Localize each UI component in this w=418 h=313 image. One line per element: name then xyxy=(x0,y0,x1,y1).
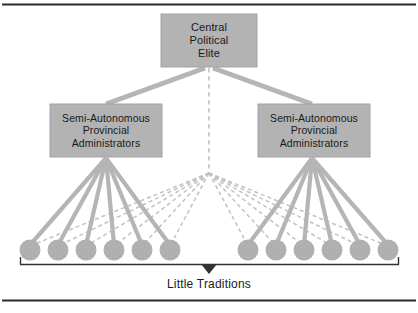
left-provincial-box xyxy=(50,104,162,157)
leaf-circle xyxy=(294,240,315,261)
dashed-fan-edge xyxy=(30,173,209,246)
right-provincial-box xyxy=(258,104,370,157)
leaf-circle xyxy=(160,240,181,261)
leaf-circles-group xyxy=(20,240,399,261)
leaf-circle xyxy=(322,240,343,261)
leaf-circle xyxy=(48,240,69,261)
dashed-fan-edge xyxy=(86,173,209,246)
diagram-page: Central Political Elite Semi-Autonomous … xyxy=(0,0,418,313)
solid-edge-central-to-left xyxy=(106,68,205,104)
leaf-circle xyxy=(132,240,153,261)
dashed-fan-edge xyxy=(209,173,388,246)
dashed-fan-edge xyxy=(209,173,332,246)
little-traditions-bracket xyxy=(20,257,399,265)
central-political-elite-box xyxy=(161,14,257,67)
leaf-circle xyxy=(350,240,371,261)
little-traditions-caption: Little Traditions xyxy=(0,277,418,291)
leaf-circle xyxy=(378,240,399,261)
leaf-circle xyxy=(238,240,259,261)
solid-edge-central-to-right xyxy=(213,68,312,104)
leaf-circle xyxy=(104,240,125,261)
solid-leaf-edge xyxy=(312,158,360,245)
solid-leaf-edge xyxy=(58,158,106,245)
leaf-circle xyxy=(76,240,97,261)
hierarchy-diagram xyxy=(0,0,418,313)
bracket-pointer-triangle xyxy=(201,264,217,274)
leaf-circle xyxy=(266,240,287,261)
leaf-circle xyxy=(20,240,41,261)
